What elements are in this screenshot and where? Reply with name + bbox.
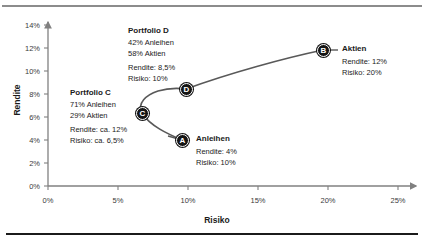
x-tick-label-25: 25% — [383, 196, 413, 205]
portfolio-d-title: Portfolio D — [128, 26, 175, 35]
y-tick-label-0: 0% — [14, 182, 40, 191]
annotation-portfolio-d: Portfolio D 42% Anleihen 58% Aktien Rend… — [128, 26, 175, 84]
portfolio-c-rendite: Rendite: ca. 12% — [70, 125, 127, 136]
annotation-aktien: Rendite: 12% Risiko: 20% — [342, 57, 387, 78]
y-tick-label-12: 12% — [14, 44, 40, 53]
portfolio-c-anleihen-share: 71% Anleihen — [70, 100, 127, 111]
x-tick-label-0: 0% — [33, 196, 63, 205]
anleihen-risiko: Risiko: 10% — [196, 158, 237, 169]
y-tick-label-2: 2% — [14, 159, 40, 168]
chart-root: 14% 12% 10% 8% 6% 4% 2% 0% 0% 5% 10% 15%… — [0, 0, 424, 245]
portfolio-c-aktien-share: 29% Aktien — [70, 111, 127, 122]
portfolio-d-risiko: Risiko: 10% — [128, 74, 175, 85]
data-point-marker-c[interactable]: C — [136, 107, 149, 120]
portfolio-d-aktien-share: 58% Aktien — [128, 49, 175, 60]
portfolio-c-title: Portfolio C — [70, 88, 127, 97]
x-tick-label-5: 5% — [103, 196, 133, 205]
x-axis-title: Risiko — [182, 215, 252, 225]
aktien-rendite: Rendite: 12% — [342, 57, 387, 68]
x-tick-label-20: 20% — [313, 196, 343, 205]
x-tick-label-10: 10% — [173, 196, 203, 205]
aktien-risiko: Risiko: 20% — [342, 68, 387, 79]
y-axis-title: Rendite — [12, 70, 22, 130]
y-tick-label-14: 14% — [14, 21, 40, 30]
plot-canvas — [0, 0, 424, 245]
aktien-title: Aktien — [342, 44, 366, 53]
data-point-marker-d[interactable]: D — [180, 83, 193, 96]
portfolio-d-anleihen-share: 42% Anleihen — [128, 38, 175, 49]
y-tick-label-4: 4% — [14, 136, 40, 145]
x-tick-label-15: 15% — [243, 196, 273, 205]
annotation-portfolio-c: Portfolio C 71% Anleihen 29% Aktien Rend… — [70, 88, 127, 146]
portfolio-d-rendite: Rendite: 8,5% — [128, 63, 175, 74]
data-point-marker-a[interactable]: A — [176, 134, 189, 147]
anleihen-rendite: Rendite: 4% — [196, 147, 237, 158]
efficient-frontier-plot: 14% 12% 10% 8% 6% 4% 2% 0% 0% 5% 10% 15%… — [0, 0, 424, 245]
annotation-anleihen: Rendite: 4% Risiko: 10% — [196, 147, 237, 168]
anleihen-title: Anleihen — [196, 134, 230, 143]
data-point-marker-b[interactable]: B — [317, 44, 330, 57]
portfolio-c-risiko: Risiko: ca. 6,5% — [70, 136, 127, 147]
